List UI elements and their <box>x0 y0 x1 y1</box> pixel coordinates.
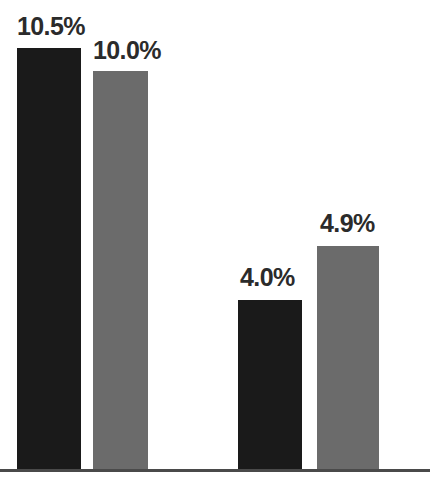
bar-group1-dark[interactable] <box>17 48 81 469</box>
x-axis-line <box>0 469 430 472</box>
bar-value-label-group2-gray: 4.9% <box>320 211 375 236</box>
bar-group2-dark[interactable] <box>238 300 302 469</box>
bar-value-label-group2-dark: 4.0% <box>240 265 295 290</box>
bar-group2-gray[interactable] <box>317 246 379 469</box>
bar-value-label-group1-gray: 10.0% <box>93 38 161 63</box>
bar-value-label-group1-dark: 10.5% <box>17 14 85 39</box>
plot-area: 10.5% 10.0% 4.0% 4.9% <box>0 0 430 483</box>
bar-group1-gray[interactable] <box>93 71 148 469</box>
bar-chart: 10.5% 10.0% 4.0% 4.9% <box>0 0 430 483</box>
